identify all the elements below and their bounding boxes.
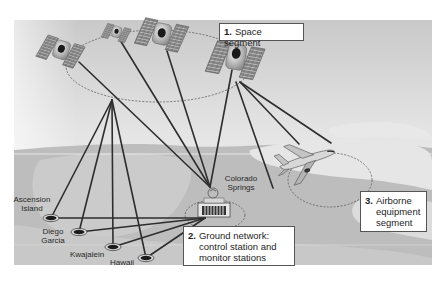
- kwajalein-label: Kwajalein: [66, 250, 108, 259]
- station-ascension-marker: [43, 214, 59, 221]
- station-hawaii-marker: [138, 254, 154, 261]
- hawaii-label: Hawaii: [106, 258, 138, 267]
- airborne-segment-number: 3.: [365, 195, 373, 228]
- ground-segment-line-2: control station and: [199, 241, 277, 252]
- gps-diagram: 1.Space segment 2. Ground network: contr…: [0, 0, 445, 285]
- ascension-line-1: Ascension: [10, 195, 54, 204]
- colorado-springs-line-1: Colorado: [222, 174, 260, 183]
- ascension-line-2: Island: [10, 204, 54, 213]
- space-segment-label: 1.Space segment: [219, 23, 304, 41]
- hawaii-line-1: Hawaii: [106, 258, 138, 267]
- space-segment-number: 1.: [224, 26, 232, 37]
- diego-garcia-label: Diego Garcia: [38, 227, 68, 245]
- ground-segment-label: 2. Ground network: control station and m…: [183, 226, 295, 266]
- kwajalein-line-1: Kwajalein: [66, 250, 108, 259]
- airborne-segment-line-3: segment: [376, 217, 420, 228]
- airborne-segment-line-2: equipment: [376, 206, 420, 217]
- colorado-springs-label: Colorado Springs: [222, 174, 260, 192]
- ascension-island-label: Ascension Island: [10, 195, 54, 213]
- colorado-springs-line-2: Springs: [222, 183, 260, 192]
- ground-segment-line-1: Ground network:: [199, 230, 277, 241]
- diego-garcia-line-2: Garcia: [38, 236, 68, 245]
- airborne-segment-line-1: Airborne: [376, 195, 420, 206]
- ground-segment-number: 2.: [188, 230, 196, 263]
- diego-garcia-line-1: Diego: [38, 227, 68, 236]
- station-diego-garcia-marker: [71, 228, 87, 235]
- ground-segment-line-3: monitor stations: [199, 252, 277, 263]
- airborne-segment-label: 3. Airborne equipment segment: [360, 191, 427, 232]
